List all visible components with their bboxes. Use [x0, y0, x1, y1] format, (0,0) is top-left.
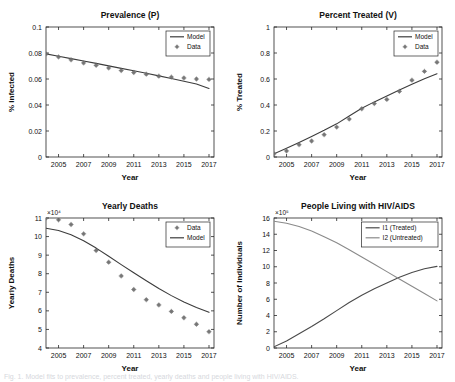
- legend-label: Data: [187, 43, 201, 50]
- y-tick-label: 0.06: [28, 76, 42, 83]
- x-tick-label: 2009: [329, 161, 345, 168]
- y-tick-label: 8: [266, 280, 270, 287]
- y-tick-label: 0.2: [260, 128, 270, 135]
- legend-label: Model: [187, 33, 205, 40]
- x-tick-label: 2007: [76, 352, 92, 359]
- y-tick-label: 9: [38, 252, 42, 259]
- y-tick-label: 5: [38, 326, 42, 333]
- subplot-yearly-deaths: Yearly Deaths200520072009201120132015201…: [0, 191, 227, 382]
- y-tick-label: 4: [266, 312, 270, 319]
- y-axis-exponent: ×10⁵: [275, 209, 289, 216]
- y-tick-label: 11: [35, 215, 42, 222]
- y-tick-label: 8: [38, 270, 42, 277]
- subplot-prevalence: Prevalence (P)20052007200920112013201520…: [0, 0, 227, 191]
- y-tick-label: 0.08: [28, 50, 42, 57]
- y-tick-label: 0.8: [260, 50, 270, 57]
- y-tick-label: 0.02: [28, 128, 42, 135]
- x-tick-label: 2015: [176, 161, 192, 168]
- x-tick-label: 2017: [429, 161, 445, 168]
- x-tick-label: 2011: [354, 352, 369, 359]
- x-axis-label: Year: [122, 173, 139, 182]
- chart-legend: I1 (Treated)I2 (Untreated): [362, 222, 438, 247]
- x-tick-label: 2005: [51, 352, 67, 359]
- x-tick-label: 2017: [201, 161, 217, 168]
- x-tick-label: 2015: [176, 352, 192, 359]
- y-tick-label: 16: [262, 215, 270, 222]
- y-tick-label: 0: [266, 345, 270, 352]
- y-tick-label: 0.6: [260, 76, 270, 83]
- chart-legend: ModelData: [166, 31, 210, 56]
- legend-label: Data: [187, 224, 201, 231]
- chart-legend: ModelData: [394, 31, 438, 56]
- legend-label: Data: [415, 43, 429, 50]
- x-tick-label: 2007: [304, 161, 320, 168]
- x-tick-label: 2007: [304, 352, 320, 359]
- x-tick-label: 2013: [379, 352, 395, 359]
- y-tick-label: 0: [266, 154, 270, 161]
- legend-label: Model: [415, 33, 433, 40]
- y-tick-label: 0.4: [260, 102, 270, 109]
- y-tick-label: 0: [38, 154, 42, 161]
- x-tick-label: 2015: [404, 161, 420, 168]
- subplot-people-living-with-hiv: People Living with HIV/AIDS2005200720092…: [228, 191, 455, 382]
- chart-title: Percent Treated (V): [319, 10, 397, 20]
- y-tick-label: 12: [262, 247, 270, 254]
- x-tick-label: 2011: [126, 161, 141, 168]
- series-i1-treated: [274, 266, 437, 346]
- chart-title: Yearly Deaths: [102, 201, 158, 211]
- x-tick-label: 2013: [151, 161, 167, 168]
- x-tick-label: 2009: [329, 352, 345, 359]
- y-tick-label: 0.04: [28, 102, 42, 109]
- y-tick-label: 6: [38, 307, 42, 314]
- x-tick-label: 2015: [404, 352, 420, 359]
- chart-percent-treated: Percent Treated (V)200520072009201120132…: [228, 0, 455, 191]
- y-tick-label: 1: [266, 24, 270, 31]
- x-tick-label: 2005: [279, 352, 295, 359]
- x-tick-label: 2009: [101, 352, 117, 359]
- y-axis-exponent: ×10⁴: [47, 209, 61, 216]
- x-tick-label: 2011: [126, 352, 141, 359]
- x-tick-label: 2005: [279, 161, 295, 168]
- legend-label: Model: [187, 234, 205, 241]
- figure-caption: Fig. 1. Model fits to prevalence, percen…: [0, 372, 455, 382]
- chart-legend: DataModel: [166, 222, 210, 247]
- chart-title: People Living with HIV/AIDS: [301, 201, 415, 211]
- figure-container: Prevalence (P)20052007200920112013201520…: [0, 0, 455, 382]
- y-axis-label: Number of Individuals: [235, 240, 244, 325]
- x-tick-label: 2011: [354, 161, 369, 168]
- legend-label: I1 (Treated): [383, 224, 417, 232]
- series-data: [271, 60, 439, 157]
- y-tick-label: 7: [38, 289, 42, 296]
- x-tick-label: 2009: [101, 161, 117, 168]
- x-tick-label: 2013: [379, 161, 395, 168]
- y-tick-label: 2: [266, 328, 270, 335]
- y-tick-label: 4: [38, 345, 42, 352]
- y-tick-label: 10: [262, 263, 270, 270]
- y-axis-label: % Treated: [235, 73, 244, 111]
- figure-caption-text: Fig. 1. Model fits to prevalence, percen…: [0, 372, 455, 382]
- chart-prevalence: Prevalence (P)20052007200920112013201520…: [0, 0, 227, 191]
- chart-yearly-deaths: Yearly Deaths200520072009201120132015201…: [0, 191, 227, 382]
- chart-people-living-with-hiv: People Living with HIV/AIDS2005200720092…: [228, 191, 455, 382]
- y-axis-label: Yearly Deaths: [7, 256, 16, 309]
- legend-label: I2 (Untreated): [383, 234, 423, 242]
- x-axis-label: Year: [350, 173, 367, 182]
- y-tick-label: 6: [266, 296, 270, 303]
- subplot-percent-treated: Percent Treated (V)200520072009201120132…: [228, 0, 455, 191]
- series-model: [274, 74, 437, 154]
- y-tick-label: 14: [262, 231, 270, 238]
- x-tick-label: 2013: [151, 352, 167, 359]
- x-tick-label: 2007: [76, 161, 92, 168]
- y-tick-label: 10: [34, 233, 42, 240]
- y-tick-label: 0.1: [32, 24, 42, 31]
- y-axis-label: % Infected: [7, 72, 16, 112]
- x-tick-label: 2005: [51, 161, 67, 168]
- x-tick-label: 2017: [201, 352, 217, 359]
- chart-title: Prevalence (P): [101, 10, 160, 20]
- x-tick-label: 2017: [429, 352, 445, 359]
